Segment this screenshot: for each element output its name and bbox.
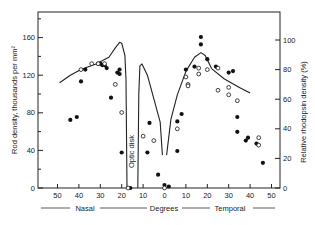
filled-data-point (175, 149, 179, 153)
open-data-point (79, 68, 83, 72)
open-data-point (257, 136, 261, 140)
open-data-point (205, 68, 209, 72)
x-tick-label: 10 (139, 191, 147, 200)
filled-data-point (261, 161, 265, 165)
rod-rhodopsin-chart: 504030201001020304050 04080120160 020406… (0, 0, 315, 225)
open-data-point (175, 127, 179, 131)
open-data-point (90, 62, 94, 66)
filled-data-point (118, 68, 122, 72)
filled-data-point (167, 184, 171, 188)
open-data-point (126, 186, 130, 190)
y-left-tick-label: 160 (22, 33, 35, 42)
filled-data-point (75, 115, 79, 119)
nasal-label: Nasal (75, 204, 95, 213)
open-data-point (120, 111, 124, 115)
filled-data-point (79, 79, 83, 83)
filled-data-point (192, 65, 196, 69)
y-right-tick-label: 80 (283, 65, 291, 74)
y-right-tick-label: 100 (283, 36, 296, 45)
x-tick-label: 0 (162, 191, 166, 200)
y-right-tick-label: 40 (283, 124, 291, 133)
x-tick-label: 50 (53, 191, 61, 200)
filled-data-point (199, 35, 203, 39)
y-left-tick-label: 40 (27, 146, 35, 155)
filled-data-point (246, 136, 250, 140)
x-tick-label: 40 (246, 191, 254, 200)
open-data-point (235, 99, 239, 103)
filled-data-point (147, 121, 151, 125)
open-data-point (103, 62, 107, 66)
rod-density-curve (60, 42, 251, 188)
open-data-point (216, 66, 220, 70)
right-y-axis-ticks: 020406080100 (275, 36, 296, 193)
x-axis-caption: Nasal Degrees Temporal (41, 204, 275, 213)
temporal-label: Temporal (215, 204, 246, 213)
open-data-point (186, 84, 190, 88)
open-data-point (184, 75, 188, 79)
x-tick-label: 20 (118, 191, 126, 200)
y-left-tick-label: 80 (27, 108, 35, 117)
y-right-tick-label: 60 (283, 95, 291, 104)
y-right-tick-label: 20 (283, 154, 291, 163)
filled-data-point (145, 150, 149, 154)
x-tick-label: 40 (75, 191, 83, 200)
filled-data-point (156, 173, 160, 177)
filled-data-point (105, 66, 109, 70)
open-data-point (163, 186, 167, 190)
x-tick-label: 50 (267, 191, 275, 200)
open-data-point (257, 143, 261, 147)
x-tick-label: 20 (203, 191, 211, 200)
filled-data-point (83, 68, 87, 72)
x-tick-label: 30 (96, 191, 104, 200)
filled-data-point (199, 42, 203, 46)
optic-disk-label: Optic disk (127, 135, 136, 168)
filled-data-point (205, 57, 209, 61)
plot-frame (38, 12, 280, 188)
open-data-point (227, 93, 231, 97)
filled-data-point (235, 130, 239, 134)
open-data-point (113, 83, 117, 87)
open-data-point (227, 86, 231, 90)
left-y-axis-title: Rod density, thousands per mm² (10, 46, 19, 154)
filled-data-point (180, 112, 184, 116)
x-tick-label: 10 (182, 191, 190, 200)
filled-data-point (231, 69, 235, 73)
open-data-point (197, 66, 201, 70)
open-data-point (197, 72, 201, 76)
data-points (68, 35, 265, 190)
y-right-tick-label: 0 (283, 184, 287, 193)
filled-data-point (184, 68, 188, 72)
open-data-point (141, 134, 145, 138)
y-left-tick-label: 0 (31, 184, 35, 193)
y-left-tick-label: 120 (22, 71, 35, 80)
open-data-point (216, 88, 220, 92)
curve-segment (138, 64, 163, 188)
filled-data-point (118, 72, 122, 76)
degrees-label: Degrees (150, 204, 179, 213)
filled-data-point (235, 115, 239, 119)
open-data-point (152, 139, 156, 143)
x-tick-label: 30 (225, 191, 233, 200)
filled-data-point (227, 71, 231, 75)
right-y-axis-title: Relative rhodopsin density (%) (299, 61, 308, 163)
filled-data-point (109, 96, 113, 100)
left-y-axis-ticks: 04080120160 (22, 19, 43, 193)
filled-data-point (120, 150, 124, 154)
filled-data-point (68, 118, 72, 122)
open-data-point (96, 62, 100, 66)
filled-data-point (175, 119, 179, 123)
